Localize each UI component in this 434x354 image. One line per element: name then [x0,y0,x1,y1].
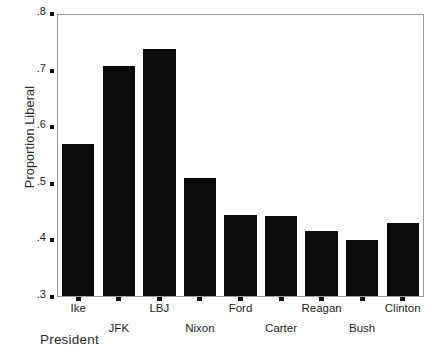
bar [62,144,94,296]
bar-slot [265,15,297,296]
bar-slot [224,15,256,296]
x-axis-tick-label: Ike [71,302,86,314]
bar-slot [184,15,216,296]
y-axis-tick-mark [50,238,54,242]
x-axis-tick-label: JFK [109,322,129,334]
x-axis-tick-label: Reagan [301,302,341,314]
bar [305,231,337,296]
y-axis-tick-mark [50,12,54,16]
x-axis-tick-label: Ford [229,302,253,314]
bar [346,240,378,296]
x-axis-tick-label: LBJ [149,302,169,314]
y-axis-tick-mark [50,295,54,299]
bar-chart-figure: .3.4.5.6.7.8 Proportion Liberal IkeJFKLB… [0,0,434,354]
y-axis-tick-mark [50,182,54,186]
bar-slot [346,15,378,296]
bar [387,223,419,296]
bar-slot [387,15,419,296]
bar-slot [305,15,337,296]
x-axis-tick-label: Carter [265,322,297,334]
bar [224,215,256,296]
y-axis-tick-mark [50,69,54,73]
y-axis-tick-mark [50,125,54,129]
y-axis-tick-label: .3 [37,289,46,300]
y-axis-tick-label: .5 [37,176,46,187]
bar [103,66,135,296]
bar [184,178,216,296]
x-axis-tick-label: Nixon [185,322,214,334]
bar-slot [62,15,94,296]
bar [265,216,297,296]
y-axis-tick-label: .8 [37,6,46,17]
bar-slot [103,15,135,296]
y-axis-tick-label: .4 [37,232,46,243]
x-axis-labels: IkeJFKLBJNixonFordCarterReaganBushClinto… [58,300,423,342]
x-axis-tick-label: Clinton [385,302,421,314]
bars-group [58,15,423,296]
bar-slot [143,15,175,296]
x-axis-title: President [40,332,99,347]
bar [143,49,175,296]
y-axis-tick-label: .6 [37,119,46,130]
y-axis-tick-label: .7 [37,63,46,74]
x-axis-tick-label: Bush [349,322,375,334]
y-axis-title: Proportion Liberal [23,37,37,237]
